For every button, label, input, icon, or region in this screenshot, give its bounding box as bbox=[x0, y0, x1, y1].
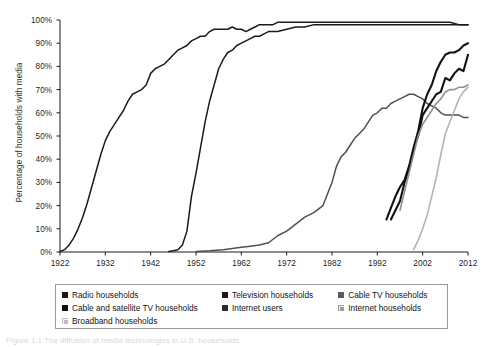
y-tick-40pct: 40% bbox=[10, 155, 52, 164]
x-tick-2002: 2002 bbox=[403, 258, 443, 268]
legend-item-broadband-households[interactable]: Broadband households bbox=[62, 314, 230, 327]
x-tick-2012: 2012 bbox=[448, 258, 481, 268]
y-tick-70pct: 70% bbox=[10, 85, 52, 94]
x-tick-1932: 1932 bbox=[85, 258, 125, 268]
x-tick-1952: 1952 bbox=[176, 258, 216, 268]
y-tick-100pct: 100% bbox=[10, 16, 52, 25]
legend-label: Radio households bbox=[72, 290, 138, 300]
legend-swatch-icon bbox=[62, 292, 68, 298]
chart-figure: Percentage of households with media 0%10… bbox=[0, 0, 481, 347]
plot-area bbox=[60, 20, 468, 252]
y-tick-90pct: 90% bbox=[10, 39, 52, 48]
y-tick-50pct: 50% bbox=[10, 132, 52, 141]
legend-item-internet-households[interactable]: Internet households bbox=[338, 301, 443, 314]
series-internet-users bbox=[391, 55, 468, 220]
legend-swatch-icon bbox=[338, 305, 344, 311]
series-television-households bbox=[169, 25, 468, 252]
y-tick-30pct: 30% bbox=[10, 178, 52, 187]
x-tick-1992: 1992 bbox=[357, 258, 397, 268]
chart-legend: Radio householdsTelevision householdsCab… bbox=[55, 284, 448, 329]
axis-lines bbox=[60, 20, 468, 252]
legend-swatch-icon bbox=[62, 305, 68, 311]
x-tick-1982: 1982 bbox=[312, 258, 352, 268]
legend-item-radio-households[interactable]: Radio households bbox=[62, 288, 222, 301]
legend-label: Broadband households bbox=[72, 316, 157, 326]
x-tick-1922: 1922 bbox=[40, 258, 80, 268]
legend-swatch-icon bbox=[222, 305, 228, 311]
legend-swatch-icon bbox=[62, 318, 68, 324]
legend-label: Cable TV households bbox=[348, 290, 427, 300]
legend-row: Cable and satellite TV householdsInterne… bbox=[62, 301, 443, 314]
series-radio-households bbox=[60, 22, 468, 251]
y-tick-10pct: 10% bbox=[10, 224, 52, 233]
x-tick-1962: 1962 bbox=[221, 258, 261, 268]
legend-row: Radio householdsTelevision householdsCab… bbox=[62, 288, 443, 301]
y-tick-0pct: 0% bbox=[10, 248, 52, 257]
x-tick-1972: 1972 bbox=[267, 258, 307, 268]
legend-label: Television households bbox=[232, 290, 313, 300]
y-tick-60pct: 60% bbox=[10, 108, 52, 117]
legend-item-internet-users[interactable]: Internet users bbox=[222, 301, 338, 314]
legend-label: Internet users bbox=[232, 303, 283, 313]
series-cable-and-satellite-tv-households bbox=[386, 43, 468, 219]
legend-item-cable-and-satellite-tv-households[interactable]: Cable and satellite TV households bbox=[62, 301, 222, 314]
legend-row: Broadband households bbox=[62, 314, 443, 327]
figure-caption: Figure 1.1 The diffusion of media techno… bbox=[6, 336, 476, 345]
legend-swatch-icon bbox=[222, 292, 228, 298]
x-tick-1942: 1942 bbox=[131, 258, 171, 268]
legend-item-cable-tv-households[interactable]: Cable TV households bbox=[338, 288, 443, 301]
y-tick-20pct: 20% bbox=[10, 201, 52, 210]
series-canvas bbox=[60, 20, 468, 252]
legend-label: Internet households bbox=[348, 303, 421, 313]
y-tick-80pct: 80% bbox=[10, 62, 52, 71]
legend-item-television-households[interactable]: Television households bbox=[222, 288, 338, 301]
legend-label: Cable and satellite TV households bbox=[72, 303, 198, 313]
legend-swatch-icon bbox=[338, 292, 344, 298]
